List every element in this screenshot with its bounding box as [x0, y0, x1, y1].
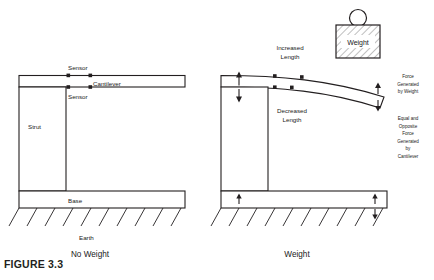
- decreased-length-label-line1: Decreased: [277, 107, 307, 114]
- left-strut-label: Strut: [28, 123, 41, 130]
- right-panel-caption: Weight: [284, 250, 310, 259]
- force-by-weight-line2: Generated: [397, 82, 419, 87]
- reaction-force-line1: Equal and: [398, 116, 419, 121]
- reaction-force-line5: by: [406, 146, 412, 151]
- right-panel-group: Weight: [211, 10, 419, 260]
- figure-caption: FIGURE 3.3: [4, 258, 63, 270]
- left-base-label: Base: [68, 197, 83, 204]
- figure-page: Sensor Cantilever Sensor Strut Base Eart…: [0, 0, 434, 280]
- increased-length-label-line1: Increased: [276, 44, 304, 51]
- reaction-force-line4: Generated: [397, 139, 419, 144]
- left-strut: [19, 87, 66, 191]
- arrow-tip-up: [375, 83, 381, 95]
- left-earth-hatching: [9, 208, 181, 226]
- left-sensor-top-label: Sensor: [68, 64, 88, 71]
- force-by-weight-line1: Force: [402, 74, 414, 79]
- reaction-force-line2: Opposite: [399, 124, 418, 129]
- left-base: [19, 191, 185, 208]
- right-strut: [221, 87, 268, 191]
- decreased-length-label-line2: Length: [283, 116, 302, 123]
- weight-block: Weight: [336, 10, 380, 59]
- left-panel-caption: No Weight: [71, 250, 110, 259]
- arrow-base-right-down: [372, 209, 377, 220]
- increased-length-label-line2: Length: [281, 53, 300, 60]
- left-sensor-bottom-label: Sensor: [68, 93, 88, 100]
- force-by-weight-line3: by Weight: [398, 89, 419, 94]
- left-cantilever-label: Cantilever: [93, 80, 121, 87]
- weight-block-label: Weight: [347, 39, 369, 47]
- cantilever-strain-diagram: Sensor Cantilever Sensor Strut Base Eart…: [0, 0, 434, 280]
- left-panel-group: Sensor Cantilever Sensor Strut Base Eart…: [9, 64, 185, 259]
- left-earth-label: Earth: [79, 234, 94, 241]
- right-base: [221, 191, 387, 208]
- reaction-force-line6: Cantilever: [398, 154, 419, 159]
- right-earth-hatching: [211, 208, 383, 226]
- reaction-force-line3: Force: [402, 131, 414, 136]
